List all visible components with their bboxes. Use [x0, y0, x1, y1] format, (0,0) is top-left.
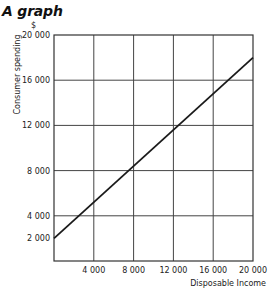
y-tick-label: 4 000	[27, 212, 50, 221]
y-tick-label: 12 000	[22, 121, 50, 130]
y-tick-label: 2 000	[27, 234, 50, 243]
data-series	[54, 58, 253, 239]
x-tick-labels: 4 0008 00012 00016 00020 000	[82, 266, 267, 275]
x-tick-label: 8 000	[122, 266, 145, 275]
x-tick-label: 16 000	[199, 266, 227, 275]
chart-plot: 2 0004 0008 00012 00016 00020 000 4 0008…	[0, 0, 272, 294]
series-line	[54, 58, 253, 239]
y-tick-label: 16 000	[22, 76, 50, 85]
x-tick-label: 4 000	[82, 266, 105, 275]
y-tick-labels: 2 0004 0008 00012 00016 00020 000	[22, 31, 50, 243]
y-tick-label: 8 000	[27, 167, 50, 176]
x-tick-label: 12 000	[159, 266, 187, 275]
y-tick-label: 20 000	[22, 31, 50, 40]
x-tick-label: 20 000	[239, 266, 267, 275]
